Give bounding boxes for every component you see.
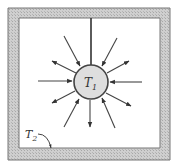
radiation-arrow-lower-left-in xyxy=(64,99,79,127)
radiation-arrow-upper-left-in xyxy=(64,36,80,66)
radiation-arrow-lower-right-in xyxy=(102,98,115,128)
radiation-arrow-upper-right-in xyxy=(102,38,117,66)
radiation-arrow-lower-left-out xyxy=(52,91,75,103)
radiation-arrow-upper-right-out xyxy=(107,61,129,73)
enclosure-label-pointer-arrow xyxy=(38,134,51,148)
radiation-arrow-lower-right-out xyxy=(106,93,131,106)
enclosure-temperature-label: T2 xyxy=(25,128,37,143)
radiation-arrow-upper-left-out xyxy=(52,61,76,73)
radiation-enclosure-diagram: T1 T2 xyxy=(0,0,174,166)
